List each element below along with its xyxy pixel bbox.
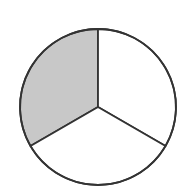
- circle-divided-in-thirds: [0, 0, 187, 194]
- fraction-diagram: [0, 0, 187, 194]
